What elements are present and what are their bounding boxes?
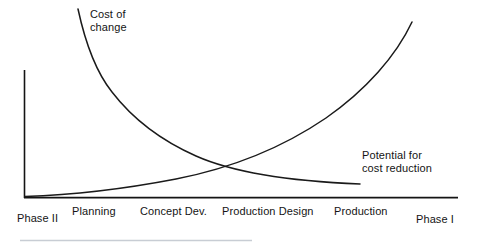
annotation-cost-of-change-line2: change: [90, 21, 127, 34]
x-axis-tick-label: Phase II: [17, 212, 58, 224]
annotation-cost-of-change-line1: Cost of: [90, 8, 127, 21]
series-potential-cost-reduction-curve: [25, 22, 412, 197]
annotation-potential-cost-reduction-line1: Potential for: [362, 149, 432, 162]
series-cost-of-change-curve: [78, 9, 360, 184]
annotation-potential-cost-reduction: Potential for cost reduction: [362, 149, 432, 175]
chart-figure: Cost of change Potential for cost reduct…: [0, 0, 478, 248]
annotation-cost-of-change: Cost of change: [90, 8, 127, 34]
annotation-potential-cost-reduction-line2: cost reduction: [362, 162, 432, 175]
x-axis-tick-label: Planning: [72, 205, 116, 217]
x-axis-tick-label: Concept Dev.: [140, 205, 207, 217]
x-axis-tick-label: Production: [334, 205, 388, 217]
x-axis-tick-label: Production Design: [222, 205, 314, 217]
x-axis-tick-label: Phase I: [416, 213, 454, 225]
